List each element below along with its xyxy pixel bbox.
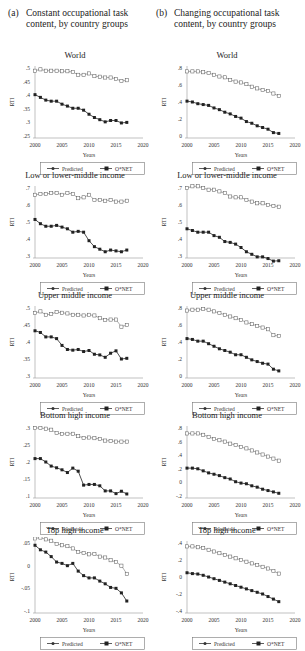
- onet-marker: [55, 100, 58, 103]
- y-tick-label: .4: [178, 339, 182, 345]
- predicted-marker: [60, 70, 63, 73]
- chart-title: Bottom high income: [152, 410, 302, 420]
- x-tick-label: 2000: [182, 617, 193, 623]
- predicted-marker: [218, 439, 221, 442]
- onet-marker: [250, 358, 253, 361]
- onet-marker: [234, 115, 237, 118]
- onet-marker: [256, 591, 259, 594]
- legend-predicted-marker-icon: [52, 642, 55, 645]
- predicted-line: [35, 311, 127, 326]
- y-tick-label: 0: [179, 574, 182, 580]
- x-tick-label: 2015: [111, 502, 122, 508]
- onet-line: [187, 339, 279, 371]
- predicted-marker: [109, 439, 112, 442]
- x-tick-label: 2010: [236, 142, 247, 148]
- predicted-marker: [234, 196, 237, 199]
- predicted-marker: [33, 312, 36, 315]
- predicted-line: [187, 433, 279, 460]
- onet-marker: [39, 548, 42, 551]
- predicted-marker: [71, 432, 74, 435]
- predicted-marker: [93, 198, 96, 201]
- predicted-marker: [50, 69, 53, 72]
- onet-marker: [196, 467, 199, 470]
- predicted-marker: [185, 186, 188, 189]
- predicted-marker: [266, 89, 269, 92]
- x-tick-label: 2015: [263, 502, 274, 508]
- onet-marker: [234, 584, 237, 587]
- predicted-marker: [212, 73, 215, 76]
- x-tick-label: 2000: [30, 502, 41, 508]
- chart-title: Low or lower-middle income: [152, 170, 302, 180]
- x-tick-label: 2020: [290, 142, 301, 148]
- y-tick-label: .8: [178, 305, 182, 311]
- predicted-marker: [212, 188, 215, 191]
- onet-marker: [223, 476, 226, 479]
- onet-marker: [120, 490, 123, 493]
- onet-marker: [229, 478, 232, 481]
- x-tick-label: 2000: [182, 262, 193, 268]
- predicted-marker: [185, 545, 188, 548]
- x-tick-label: 2010: [84, 382, 95, 388]
- onet-marker: [240, 586, 243, 589]
- onet-marker: [61, 226, 64, 229]
- chart-title: Upper middle income: [152, 290, 302, 300]
- y-tick-label: .3: [26, 425, 30, 431]
- x-tick-label: 2015: [111, 382, 122, 388]
- predicted-marker: [245, 321, 248, 324]
- predicted-marker: [191, 545, 194, 548]
- predicted-marker: [191, 308, 194, 311]
- y-tick-label: 0: [179, 373, 182, 379]
- predicted-marker: [77, 313, 80, 316]
- predicted-marker: [55, 69, 58, 72]
- onet-marker: [61, 468, 64, 471]
- y-tick-label: -.1: [24, 608, 30, 614]
- predicted-marker: [207, 72, 210, 75]
- predicted-marker: [114, 200, 117, 203]
- predicted-marker: [239, 558, 242, 561]
- onet-marker: [196, 102, 199, 105]
- predicted-marker: [266, 567, 269, 570]
- y-axis-label: RTI: [161, 338, 167, 347]
- predicted-marker: [39, 192, 42, 195]
- line-chart: -.4-.20.2.4RTI20002005201020152020Years: [152, 537, 302, 637]
- predicted-marker: [245, 560, 248, 563]
- predicted-marker: [60, 193, 63, 196]
- chart-title: Top high income: [152, 525, 302, 535]
- predicted-marker: [272, 569, 275, 572]
- predicted-marker: [250, 449, 253, 452]
- predicted-marker: [114, 77, 117, 80]
- onet-marker: [77, 230, 80, 233]
- x-tick-label: 2020: [290, 262, 301, 268]
- onet-marker: [98, 484, 101, 487]
- onet-marker: [202, 340, 205, 343]
- predicted-marker: [277, 572, 280, 575]
- x-tick-label: 2000: [182, 382, 193, 388]
- predicted-marker: [60, 311, 63, 314]
- onet-marker: [196, 573, 199, 576]
- onet-marker: [261, 488, 264, 491]
- x-tick-label: 2010: [84, 262, 95, 268]
- predicted-marker: [234, 443, 237, 446]
- legend: PredictedO*NET: [192, 637, 302, 651]
- onet-marker: [218, 579, 221, 582]
- onet-line: [35, 219, 127, 251]
- predicted-marker: [71, 547, 74, 550]
- y-axis-label: RTI: [161, 573, 167, 582]
- onet-marker: [245, 587, 248, 590]
- predicted-marker: [256, 87, 259, 90]
- predicted-marker: [120, 440, 123, 443]
- predicted-marker: [250, 562, 253, 565]
- onet-marker: [104, 120, 107, 123]
- predicted-marker: [114, 440, 117, 443]
- onet-marker: [109, 586, 112, 589]
- y-tick-label: .15: [23, 476, 30, 482]
- onet-marker: [218, 347, 221, 350]
- predicted-marker: [87, 193, 90, 196]
- predicted-marker: [229, 195, 232, 198]
- predicted-marker: [33, 193, 36, 196]
- onet-marker: [71, 349, 74, 352]
- onet-marker: [196, 231, 199, 234]
- predicted-line: [187, 309, 279, 336]
- onet-marker: [277, 600, 280, 603]
- y-tick-label: .05: [23, 540, 30, 546]
